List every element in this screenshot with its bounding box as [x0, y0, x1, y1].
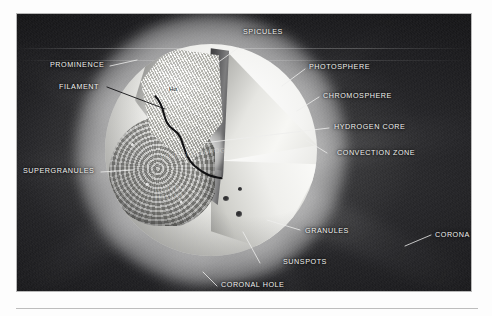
label-supergranules: SUPERGRANULES	[23, 166, 94, 175]
sunspot	[223, 196, 229, 201]
label-spicules: SPICULES	[243, 27, 283, 36]
label-filament: FILAMENT	[59, 82, 99, 91]
label-prominence: PROMINENCE	[50, 60, 104, 69]
bottom-horizontal-rule	[16, 308, 478, 309]
interior-label-ionized-helium: IONIZED HELIUM	[154, 182, 201, 201]
label-granules: GRANULES	[305, 226, 349, 235]
label-photosphere: PHOTOSPHERE	[309, 62, 370, 71]
label-corona: CORONA	[435, 230, 470, 239]
label-coronal-hole: CORONAL HOLE	[221, 280, 284, 289]
sunspot	[238, 187, 242, 191]
label-sunspots: SUNSPOTS	[283, 257, 327, 266]
sun-sphere: IONIZED HYDROGEN IONIZED HELIUM Hα	[105, 44, 317, 256]
label-hydrogen-core: HYDROGEN CORE	[334, 122, 405, 131]
sun-cutaway-figure: IONIZED HYDROGEN IONIZED HELIUM Hα	[17, 14, 471, 291]
page-root: IONIZED HYDROGEN IONIZED HELIUM Hα	[0, 0, 492, 316]
label-chromosphere: CHROMOSPHERE	[323, 91, 392, 100]
h-alpha-annotation: Hα	[169, 86, 177, 92]
label-convection-zone: CONVECTION ZONE	[337, 148, 415, 157]
